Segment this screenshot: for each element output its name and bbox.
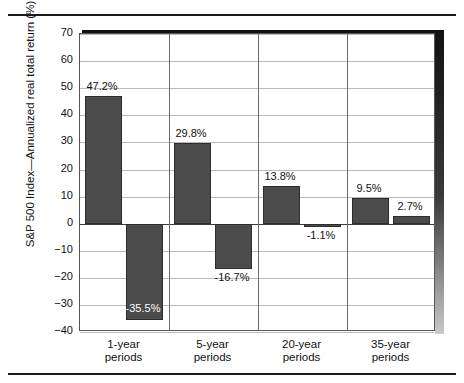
bottom-divider-rule: [8, 373, 456, 375]
bar: [304, 224, 341, 227]
x-axis-category-label: 35-yearperiods: [346, 338, 435, 364]
group-separator: [169, 34, 170, 330]
gridline: [80, 34, 434, 35]
x-axis-label-line: 5-year: [168, 338, 257, 351]
y-axis-tick: 10: [0, 190, 73, 201]
gridline: [80, 61, 434, 62]
bar: [215, 224, 252, 269]
bar-value-label: 2.7%: [386, 201, 435, 212]
x-axis-category-label: 5-yearperiods: [168, 338, 257, 364]
gridline: [80, 332, 434, 333]
y-axis-tick: 0: [0, 217, 73, 228]
bar: [393, 216, 430, 223]
y-axis-tick: −10: [0, 244, 73, 255]
bar-value-label: -35.5%: [119, 303, 168, 314]
y-axis-tick: 20: [0, 163, 73, 174]
x-axis-label-line: 35-year: [346, 338, 435, 351]
y-axis-tick: −20: [0, 271, 73, 282]
gridline: [80, 142, 434, 143]
x-axis-label-line: periods: [346, 351, 435, 364]
x-axis-label-line: 1-year: [79, 338, 168, 351]
gridline: [80, 115, 434, 116]
x-axis-category-label: 20-yearperiods: [257, 338, 346, 364]
y-axis-tick: −40: [0, 325, 73, 336]
bar: [85, 96, 122, 224]
top-divider-rule: [8, 14, 456, 16]
bar-value-label: 47.2%: [78, 81, 127, 92]
x-axis-label-line: 20-year: [257, 338, 346, 351]
y-axis-tick: 60: [0, 54, 73, 65]
x-axis-label-line: periods: [168, 351, 257, 364]
bar-value-label: 13.8%: [256, 171, 305, 182]
y-axis-tick: 50: [0, 81, 73, 92]
y-axis-tick: 40: [0, 108, 73, 119]
bar-value-label: 29.8%: [167, 128, 216, 139]
bar-value-label: 9.5%: [345, 183, 394, 194]
gridline: [80, 88, 434, 89]
y-axis-tick: 30: [0, 135, 73, 146]
bar: [174, 143, 211, 224]
y-axis-tick: −30: [0, 298, 73, 309]
x-axis-category-label: 1-yearperiods: [79, 338, 168, 364]
bar: [352, 198, 389, 224]
x-axis-label-line: periods: [257, 351, 346, 364]
bar: [263, 186, 300, 223]
x-axis-label-line: periods: [79, 351, 168, 364]
bar-value-label: -16.7%: [208, 272, 257, 283]
bar-value-label: -1.1%: [297, 230, 346, 241]
y-axis-tick: 70: [0, 27, 73, 38]
plot-shadow-right: [435, 30, 444, 334]
